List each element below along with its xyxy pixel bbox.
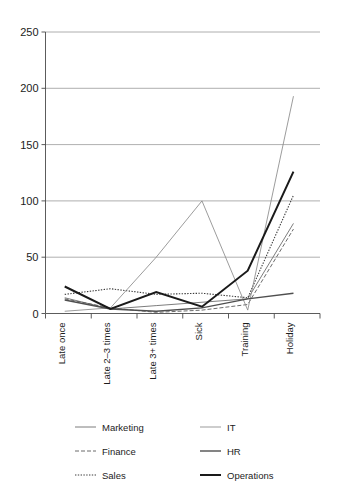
data-series-group xyxy=(65,96,294,312)
x-category-label: Late 3+ times xyxy=(147,322,158,380)
line-chart: 050100150200250 Late onceLate 2–3 timesL… xyxy=(0,0,341,491)
legend-item-sales[interactable]: Sales xyxy=(75,470,126,481)
x-category-label: Training xyxy=(239,323,250,357)
series-line-it xyxy=(65,96,294,311)
y-axis-tick-labels: 050100150200250 xyxy=(20,26,38,320)
x-category-label: Late once xyxy=(56,323,67,365)
legend-label: Sales xyxy=(102,470,126,481)
y-tick-marks xyxy=(42,32,46,314)
y-tick-label: 0 xyxy=(32,308,38,320)
x-category-label: Holiday xyxy=(284,322,295,354)
x-axis-category-labels: Late onceLate 2–3 timesLate 3+ timesSick… xyxy=(56,322,296,385)
legend-item-hr[interactable]: HR xyxy=(200,446,241,457)
legend-label: Finance xyxy=(102,446,136,457)
y-tick-label: 150 xyxy=(20,139,38,151)
legend-label: HR xyxy=(227,446,241,457)
y-tick-label: 250 xyxy=(20,26,38,38)
gridlines xyxy=(46,32,321,257)
legend-item-marketing[interactable]: Marketing xyxy=(75,422,144,433)
chart-canvas: 050100150200250 Late onceLate 2–3 timesL… xyxy=(0,0,341,491)
legend-label: IT xyxy=(227,422,236,433)
series-line-marketing xyxy=(65,223,294,309)
legend-item-operations[interactable]: Operations xyxy=(200,470,274,481)
y-tick-label: 100 xyxy=(20,195,38,207)
chart-legend: MarketingFinanceSalesITHROperations xyxy=(75,422,274,481)
x-category-label: Sick xyxy=(193,322,204,340)
y-tick-label: 200 xyxy=(20,82,38,94)
x-category-label: Late 2–3 times xyxy=(101,322,112,385)
y-tick-label: 50 xyxy=(26,251,38,263)
legend-item-it[interactable]: IT xyxy=(200,422,236,433)
legend-label: Marketing xyxy=(102,422,144,433)
series-line-operations xyxy=(65,172,294,309)
legend-label: Operations xyxy=(227,470,274,481)
x-tick-marks xyxy=(46,314,321,319)
legend-item-finance[interactable]: Finance xyxy=(75,446,136,457)
